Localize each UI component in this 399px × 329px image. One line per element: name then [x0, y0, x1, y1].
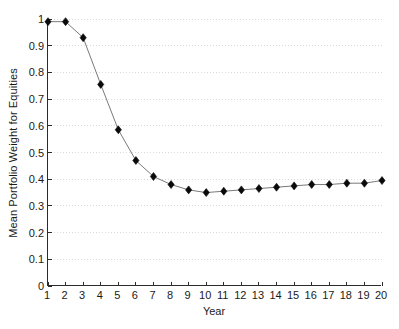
data-point [326, 181, 332, 189]
x-axis-tick-label: 1 [44, 289, 50, 301]
x-axis-tick-label: 15 [287, 289, 299, 301]
y-axis-tick-label: 0.6 [18, 120, 44, 132]
y-axis-tick-label: 0.9 [18, 40, 44, 52]
x-axis-tick-label: 4 [97, 289, 103, 301]
data-point [221, 187, 227, 195]
data-point [203, 189, 209, 197]
data-point [150, 173, 156, 181]
x-axis-tick-label: 2 [62, 289, 68, 301]
x-axis-tick-label: 6 [132, 289, 138, 301]
x-axis-tick-label: 16 [305, 289, 317, 301]
data-point [238, 186, 244, 194]
series-markers [45, 18, 385, 197]
data-point [115, 126, 121, 134]
data-point [361, 179, 367, 187]
x-axis-tick-label: 5 [114, 289, 120, 301]
x-axis-tick-label: 12 [234, 289, 246, 301]
x-axis-tick-label: 17 [322, 289, 334, 301]
x-axis-tick-label: 3 [79, 289, 85, 301]
data-point [168, 181, 174, 189]
y-axis-tick-label: 0.7 [18, 93, 44, 105]
x-axis-tick-label: 8 [167, 289, 173, 301]
y-axis-tick-marks [48, 19, 52, 286]
y-axis-tick-label: 0.2 [18, 227, 44, 239]
x-axis-tick-label: 13 [252, 289, 264, 301]
x-axis-tick-label: 18 [340, 289, 352, 301]
x-axis-tick-label: 10 [199, 289, 211, 301]
y-axis-tick-labels: 00.10.20.30.40.50.60.70.80.91 [14, 0, 44, 329]
data-point [98, 80, 104, 88]
x-axis-tick-label: 11 [217, 289, 228, 301]
data-point [186, 186, 192, 194]
plot-canvas [48, 19, 382, 286]
plot-area [47, 19, 381, 286]
x-axis-tick-label: 19 [357, 289, 369, 301]
y-axis-tick-label: 0.3 [18, 200, 44, 212]
y-axis-tick-label: 0.1 [18, 253, 44, 265]
data-point [379, 177, 385, 185]
series-line [48, 22, 382, 193]
x-axis-tick-label: 7 [149, 289, 155, 301]
data-point [291, 182, 297, 190]
data-point [309, 181, 315, 189]
y-axis-tick-label: 0 [18, 280, 44, 292]
gridlines [48, 19, 382, 259]
y-axis-tick-label: 0.4 [18, 173, 44, 185]
y-axis-tick-label: 1 [18, 13, 44, 25]
y-axis-tick-label: 0.5 [18, 147, 44, 159]
x-axis-tick-label: 14 [269, 289, 281, 301]
x-axis-tick-marks [48, 282, 382, 286]
data-point [80, 34, 86, 42]
y-axis-tick-label: 0.8 [18, 66, 44, 78]
x-axis-label: Year [47, 305, 381, 317]
chart-figure: Mean Portfolio Weight for Equities 00.10… [0, 0, 399, 329]
data-point [273, 183, 279, 191]
x-axis-tick-label: 9 [185, 289, 191, 301]
x-axis-tick-labels: 1234567891011121314151617181920 [47, 289, 387, 305]
data-point [344, 179, 350, 187]
x-axis-tick-label: 20 [375, 289, 387, 301]
data-point [133, 157, 139, 165]
data-point [256, 185, 262, 193]
